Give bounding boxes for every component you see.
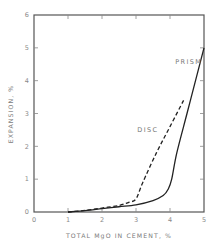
series-label-prism: PRISM [175, 58, 202, 66]
series-prism-line [68, 48, 204, 212]
chart: 0123450123456 PRISMDISC TOTAL MgO IN CEM… [0, 0, 215, 246]
series-lines [68, 48, 204, 212]
x-tick-label: 3 [134, 216, 138, 224]
x-tick-label: 0 [32, 216, 36, 224]
x-tick-label: 1 [66, 216, 70, 224]
y-tick-label: 1 [25, 175, 29, 183]
series-label-disc: DISC [137, 126, 158, 134]
y-tick-label: 2 [25, 143, 29, 151]
x-axis-label: TOTAL MgO IN CEMENT, % [65, 232, 172, 240]
y-tick-label: 3 [25, 110, 29, 118]
x-tick-label: 5 [202, 216, 206, 224]
x-tick-label: 2 [100, 216, 104, 224]
series-disc-line [68, 100, 184, 212]
axis-ticks: 0123450123456 [25, 11, 206, 224]
y-tick-label: 6 [25, 11, 29, 19]
y-tick-label: 4 [25, 77, 29, 85]
plot-frame [34, 15, 204, 212]
plot-border [34, 15, 204, 212]
y-axis-label: EXPANSION, % [7, 85, 14, 144]
y-tick-label: 0 [25, 208, 29, 216]
y-tick-label: 5 [25, 44, 29, 52]
x-tick-label: 4 [168, 216, 172, 224]
series-labels: PRISMDISC [137, 58, 202, 133]
